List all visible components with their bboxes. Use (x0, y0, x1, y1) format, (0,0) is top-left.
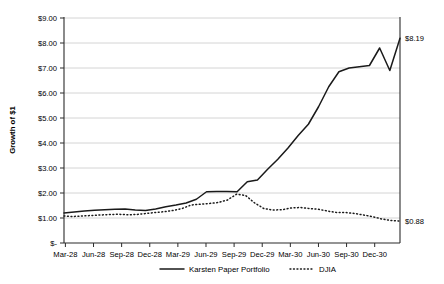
y-tick-label: $7.00 (38, 64, 57, 73)
gridlines (64, 18, 400, 218)
data-series (64, 38, 400, 221)
x-tick-label: Dec-29 (250, 250, 274, 259)
y-tick-label: $8.00 (38, 39, 57, 48)
series-line-djia (64, 194, 400, 221)
y-tick-label: $4.00 (38, 139, 57, 148)
chart-container: $-$1.00$2.00$3.00$4.00$5.00$6.00$7.00$8.… (0, 0, 444, 284)
y-tick-label: $9.00 (38, 14, 57, 23)
y-tick-label: $5.00 (38, 114, 57, 123)
chart-legend: Karsten Paper PortfolioDJIA (160, 265, 337, 274)
series-end-labels: $8.19$0.88 (405, 34, 424, 226)
x-tick-label: Mar-30 (278, 250, 302, 259)
y-axis-title: Growth of $1 (8, 106, 17, 154)
legend-label-karsten: Karsten Paper Portfolio (189, 265, 270, 274)
x-tick-label: Mar-28 (53, 250, 77, 259)
y-tick-label: $6.00 (38, 89, 57, 98)
x-tick-label: Jun-30 (307, 250, 330, 259)
y-axis-ticks (60, 18, 64, 243)
y-axis-tick-labels: $-$1.00$2.00$3.00$4.00$5.00$6.00$7.00$8.… (38, 14, 57, 248)
x-tick-label: Dec-30 (362, 250, 386, 259)
x-axis-tick-labels: Mar-28Jun-28Sep-28Dec-28Mar-29Jun-29Sep-… (53, 250, 387, 259)
end-label-djia: $0.88 (405, 217, 424, 226)
y-tick-label: $- (50, 239, 57, 248)
x-tick-label: Sep-28 (109, 250, 134, 259)
x-tick-label: Sep-29 (222, 250, 247, 259)
y-tick-label: $1.00 (38, 214, 57, 223)
y-tick-label: $3.00 (38, 164, 57, 173)
y-tick-label: $2.00 (38, 189, 57, 198)
legend-label-djia: DJIA (319, 265, 337, 274)
x-tick-label: Jun-28 (82, 250, 105, 259)
x-tick-label: Dec-28 (138, 250, 162, 259)
x-tick-label: Jun-29 (194, 250, 217, 259)
growth-of-dollar-line-chart: $-$1.00$2.00$3.00$4.00$5.00$6.00$7.00$8.… (0, 0, 444, 284)
x-tick-label: Mar-29 (166, 250, 190, 259)
series-line-karsten-paper-portfolio (64, 38, 400, 213)
x-tick-label: Sep-30 (334, 250, 359, 259)
x-axis-ticks (65, 243, 374, 247)
end-label-karsten: $8.19 (405, 34, 424, 43)
